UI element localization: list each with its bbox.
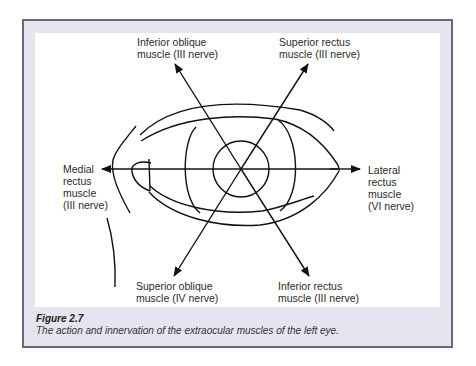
label-line: muscle (III nerve): [279, 48, 360, 60]
label-superior-rectus: Superior rectus muscle (III nerve): [279, 36, 360, 60]
label-line: Inferior oblique: [137, 36, 218, 48]
label-line: (III nerve): [63, 199, 108, 211]
iris-outer-right: [278, 120, 296, 211]
label-medial-rectus: Medial rectus muscle (III nerve): [63, 163, 108, 211]
label-line: Superior oblique: [136, 280, 218, 292]
label-line: muscle (IV nerve): [136, 292, 218, 304]
label-line: muscle: [63, 187, 108, 199]
label-inferior-oblique: Inferior oblique muscle (III nerve): [137, 36, 218, 60]
label-line: muscle (III nerve): [278, 292, 359, 304]
iris-outer: [185, 127, 200, 213]
label-line: muscle: [368, 188, 414, 200]
label-line: Lateral: [368, 164, 414, 176]
caruncle: [132, 162, 151, 191]
inferior-rectus-arrow: [241, 169, 309, 276]
nasal-contour-lower: [107, 218, 115, 287]
figure-number: Figure 2.7: [36, 313, 83, 324]
label-line: Superior rectus: [279, 36, 360, 48]
label-line: muscle (III nerve): [137, 48, 218, 60]
label-line: (VI nerve): [368, 200, 414, 212]
label-line: rectus: [63, 175, 108, 187]
label-lateral-rectus: Lateral rectus muscle (VI nerve): [368, 164, 414, 212]
figure-caption: The action and innervation of the extrao…: [36, 325, 339, 336]
label-line: Inferior rectus: [278, 280, 359, 292]
caruncle-line: [149, 159, 150, 191]
label-superior-oblique: Superior oblique muscle (IV nerve): [136, 280, 218, 304]
label-line: Medial: [63, 163, 108, 175]
superior-oblique-arrow: [174, 169, 241, 276]
label-line: rectus: [368, 176, 414, 188]
label-inferior-rectus: Inferior rectus muscle (III nerve): [278, 280, 359, 304]
